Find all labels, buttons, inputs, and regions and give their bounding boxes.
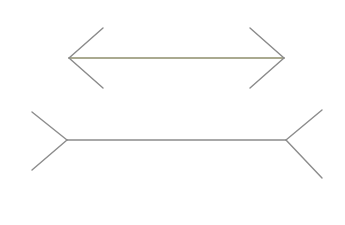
right-lower-fin-line: [250, 58, 284, 88]
left-upper-fin-line: [32, 112, 67, 140]
left-upper-fin-line: [69, 28, 103, 58]
right-lower-fin-line: [286, 140, 322, 178]
outward-fin-figure: [32, 110, 322, 178]
right-upper-fin-line: [250, 28, 284, 58]
inward-arrow-figure: [69, 28, 284, 88]
diagram-canvas: [0, 0, 345, 225]
muller-lyer-diagram: [0, 0, 345, 225]
left-lower-fin-line: [32, 140, 67, 170]
left-lower-fin-line: [69, 58, 103, 88]
right-upper-fin-line: [286, 110, 322, 140]
